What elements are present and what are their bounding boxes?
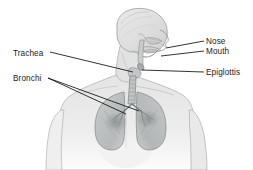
mouth-leader-line (161, 51, 204, 56)
left-arm-shape (46, 110, 64, 170)
label-bronchi: Bronchi (13, 74, 41, 83)
epiglottis-leader-line (142, 70, 204, 72)
right-arm-shape (189, 110, 207, 170)
label-trachea: Trachea (13, 49, 43, 58)
label-mouth: Mouth (206, 47, 229, 56)
nose-leader-line (166, 41, 204, 48)
left-bronchi-speckle (137, 110, 159, 128)
respiratory-system-figure: Trachea Bronchi Nose Mouth Epiglottis (0, 0, 253, 170)
anatomy-illustration (0, 0, 253, 170)
label-nose: Nose (206, 37, 226, 46)
label-epiglottis: Epiglottis (206, 68, 240, 77)
right-bronchi-speckle (104, 112, 128, 132)
